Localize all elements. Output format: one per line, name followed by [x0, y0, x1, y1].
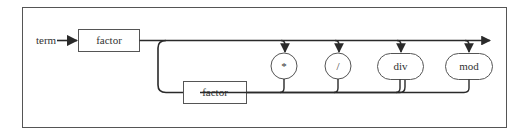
op-div-label: div [393, 60, 408, 72]
syntax-diagram: term factor factor * / div mod [0, 0, 529, 136]
op-times-label: * [281, 60, 287, 72]
op-mod-label: mod [459, 60, 479, 72]
drop-arrow-div [397, 41, 401, 53]
bottom-return-path [247, 80, 406, 93]
rise-divide [334, 79, 338, 93]
drop-arrow-times [281, 41, 285, 53]
rise-div [396, 80, 400, 93]
factor-main-label: factor [96, 34, 122, 46]
rise-times [280, 79, 284, 93]
drop-arrow-mod [465, 41, 469, 53]
loop-back-path [158, 41, 183, 93]
entry-label: term [36, 34, 57, 46]
diagram-frame [23, 8, 507, 128]
rise-mod [247, 80, 470, 93]
drop-arrow-divide [335, 41, 339, 53]
